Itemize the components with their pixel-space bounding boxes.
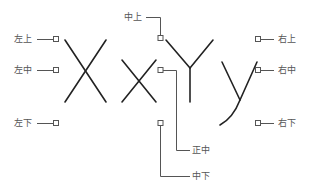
anchor-bottom-left (37, 121, 59, 126)
label-top-left: 左上 (14, 34, 32, 44)
label-top-center: 中上 (124, 12, 142, 22)
anchor-top-left (37, 37, 59, 42)
label-top-right: 右上 (278, 34, 296, 44)
anchor-middle-right (256, 68, 275, 73)
anchor-top-center (146, 18, 163, 41)
anchor-bottom-right (256, 121, 275, 126)
anchor-middle-left (37, 68, 59, 73)
label-middle-right: 右中 (278, 65, 296, 75)
glyph-lowercase-y (220, 62, 257, 125)
label-bottom-center: 中下 (192, 171, 210, 181)
label-middle-left: 左中 (14, 65, 32, 75)
label-bottom-right: 右下 (278, 118, 296, 128)
label-center: 正中 (192, 145, 210, 155)
label-bottom-left: 左下 (14, 118, 32, 128)
glyph-lowercase-x (122, 60, 156, 102)
anchor-bottom-center (158, 121, 190, 177)
glyph-uppercase-x (65, 40, 106, 102)
anchor-top-right (256, 37, 275, 42)
anchor-center (158, 68, 190, 151)
diagram-canvas (0, 0, 312, 195)
